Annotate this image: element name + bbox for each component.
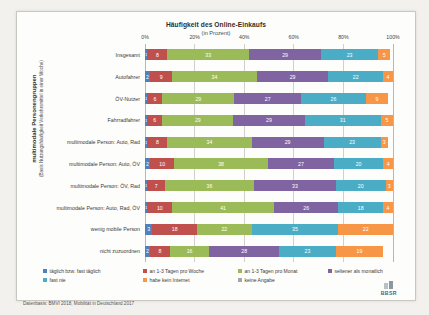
bar-segment: 19 [336,246,383,257]
bar-segment: 8 [147,49,167,60]
bar-segment: 9 [150,71,172,82]
y-axis-category-labels: InsgesamtAutofahrerÖV-NutzerFahrradfahre… [25,44,143,262]
x-tick-40%: 40% [239,34,249,40]
bar-segment: 26 [301,93,365,104]
bar-segment: 3 [386,180,393,191]
bar-segment: 20 [336,180,386,191]
bar-segment: 26 [274,202,338,213]
bar-segment: 38 [174,158,267,169]
category-label: multimodale Person: Auto, Rad [67,139,140,145]
bar-segment: 35 [252,224,339,235]
bar-segment: 4 [383,202,393,213]
bar-segment: 3 [381,137,388,148]
chart-title: Häufigkeit des Online-Einkaufs [17,21,415,28]
bar-segment: 29 [162,93,234,104]
bar-segment: 8 [150,246,170,257]
bar-segment: 4 [383,71,393,82]
chart-figure: Häufigkeit des Online-Einkaufs (in Proze… [16,11,416,301]
x-tick-100%: 100% [386,34,399,40]
bar-row: 293429224 [145,71,393,82]
category-label: multimodale Person: Auto, Rad, ÖV [56,205,140,211]
bar-segment: 34 [167,137,251,148]
legend-label: habe kein Internet [150,277,190,283]
bar-row: 2103827204 [145,158,393,169]
legend-label: fast nie [50,277,66,283]
bar-segment: 10 [150,158,175,169]
bar-segment: 4 [383,158,393,169]
legend-item[interactable]: keine Angabe [238,277,275,283]
legend-item[interactable]: seltener als monatlich [328,268,383,274]
bar-row: 1104126184 [145,202,393,213]
bar-segment: 33 [167,49,249,60]
bar-segment: 27 [268,158,334,169]
bar-row: 183429233 [145,137,393,148]
bar-segment: 23 [324,137,381,148]
bar-segment: 36 [165,180,254,191]
bar-segment: 6 [147,93,162,104]
legend-swatch-icon [238,269,242,273]
legend-swatch-icon [238,278,242,282]
bar-segment: 29 [233,115,304,126]
bbsr-logo: BBSR [381,281,397,296]
bar-segment: 5 [381,115,393,126]
bar-segment: 23 [321,49,378,60]
bar-row: 2816282319 [145,246,393,257]
source-note: Datenbasis: BMVI 2018, Mobilität in Deut… [23,301,134,306]
category-label: wenig mobile Person [91,226,140,232]
bar-segment: 7 [147,180,164,191]
bar-segment: 28 [209,246,278,257]
legend-label: keine Angabe [245,277,275,283]
bar-segment: 8 [147,137,167,148]
bar-segment: 29 [257,71,329,82]
bar-row: 162927269 [145,93,393,104]
legend-item[interactable]: täglich bzw. fast täglich [43,268,101,274]
legend-label: seltener als monatlich [335,268,383,274]
bar-segment: 23 [279,246,336,257]
bar-segment: 3 [145,224,152,235]
legend-label: an 1-3 Tagen pro Woche [150,268,205,274]
category-label: multimodale Person: Auto, ÖV [69,161,140,167]
x-tick-0%: 0% [141,34,149,40]
bar-segment: 22 [338,224,393,235]
bar-segment: 20 [334,158,383,169]
legend-swatch-icon [328,269,332,273]
bar-segment: 29 [162,115,233,126]
bar-segment: 18 [338,202,383,213]
bar-row: 162929315 [145,115,393,126]
category-label: multimodale Person: ÖV, Rad [70,183,140,189]
legend-item[interactable]: habe kein Internet [143,277,190,283]
bbsr-mark-icon [384,281,393,289]
bar-segment: 16 [170,246,210,257]
legend-swatch-icon [43,269,47,273]
legend-label: an 1-3 Tagen pro Monat [245,268,298,274]
bar-segment: 10 [147,202,172,213]
bar-row: 183329235 [145,49,393,60]
bar-segment: 41 [172,202,274,213]
legend-item[interactable]: fast nie [43,277,66,283]
category-label: Fahrradfahrer [108,117,140,123]
bar-row: 173633203 [145,180,393,191]
bar-segment: 9 [366,93,388,104]
category-label: Insgesamt [116,52,140,58]
legend-item[interactable]: an 1-3 Tagen pro Woche [143,268,204,274]
bar-segment: 33 [254,180,336,191]
x-tick-60%: 60% [289,34,299,40]
category-label: Autofahrer [115,74,140,80]
bar-segment: 5 [378,49,390,60]
bar-segment: 27 [234,93,301,104]
x-axis-tick-labels: 0%20%40%60%80%100% [145,34,393,44]
legend-label: täglich bzw. fast täglich [50,268,101,274]
bar-segment: 29 [252,137,324,148]
x-tick-20%: 20% [189,34,199,40]
bar-segment: 6 [147,115,162,126]
bar-segment: 22 [197,224,252,235]
legend-swatch-icon [143,269,147,273]
category-label: nicht zuzuordnen [100,248,140,254]
bar-segment: 34 [172,71,256,82]
chart-legend: täglich bzw. fast täglichan 1-3 Tagen pr… [43,268,393,290]
bar-segment: 31 [305,115,381,126]
legend-item[interactable]: an 1-3 Tagen pro Monat [238,268,298,274]
x-tick-80%: 80% [338,34,348,40]
legend-swatch-icon [43,278,47,282]
category-label: ÖV-Nutzer [115,96,140,102]
